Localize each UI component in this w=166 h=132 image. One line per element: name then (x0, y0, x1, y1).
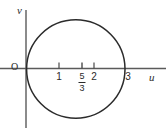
tick-label-1: 1 (56, 72, 62, 82)
fraction-denominator: 3 (78, 84, 85, 93)
origin-label: O (11, 62, 18, 72)
u-axis-label: u (149, 72, 155, 83)
figure-container: v u O 1 5 3 2 3 (0, 0, 166, 132)
tick-label-five-thirds: 5 3 (78, 72, 85, 93)
v-axis-label: v (17, 5, 22, 16)
tick-label-3: 3 (125, 72, 131, 82)
tick-label-2: 2 (91, 72, 97, 82)
plot-canvas (0, 0, 166, 132)
fraction-numerator: 5 (78, 72, 85, 81)
